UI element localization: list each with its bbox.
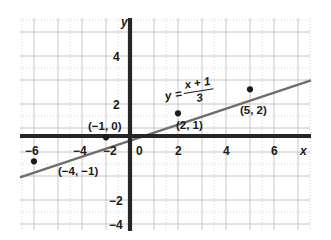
data-point-marker (247, 86, 253, 92)
coordinate-plane (0, 0, 331, 240)
equation-lhs: y = (164, 87, 183, 103)
grid-layer (20, 18, 310, 230)
x-tick-label-pos4: 4 (223, 145, 230, 157)
equation-denominator: 3 (194, 91, 206, 105)
y-tick-label-neg2: −2 (109, 195, 123, 207)
point-label-5-2: (5, 2) (240, 105, 267, 117)
graph-figure: −6 −4 −2 0 2 4 6 4 2 −2 −4 y x (−1, 0) (… (0, 0, 331, 240)
y-axis-label: y (121, 16, 128, 28)
x-tick-label-zero: 0 (136, 145, 143, 157)
y-tick-label-pos2: 2 (113, 99, 120, 111)
axes-layer (20, 18, 311, 231)
x-tick-label-neg2: −2 (103, 145, 117, 157)
x-tick-label-neg4: −4 (73, 145, 87, 157)
data-point-marker (103, 134, 109, 140)
point-label-neg4-neg1: (−4, −1) (58, 166, 98, 178)
x-tick-label-pos6: 6 (271, 145, 278, 157)
grid-vertical-minor (22, 18, 310, 230)
data-point-marker (175, 110, 181, 116)
equation-fraction: x + 1 3 (182, 75, 216, 106)
x-tick-label-pos2: 2 (175, 145, 182, 157)
x-axis-label: x (300, 145, 307, 157)
point-label-2-1: (2, 1) (176, 120, 203, 132)
y-tick-label-neg4: −4 (109, 219, 123, 231)
data-point-marker (31, 158, 37, 164)
point-label-neg1-0: (−1, 0) (88, 121, 122, 133)
y-tick-label-pos4: 4 (113, 51, 120, 63)
x-tick-label-neg6: −6 (25, 145, 39, 157)
